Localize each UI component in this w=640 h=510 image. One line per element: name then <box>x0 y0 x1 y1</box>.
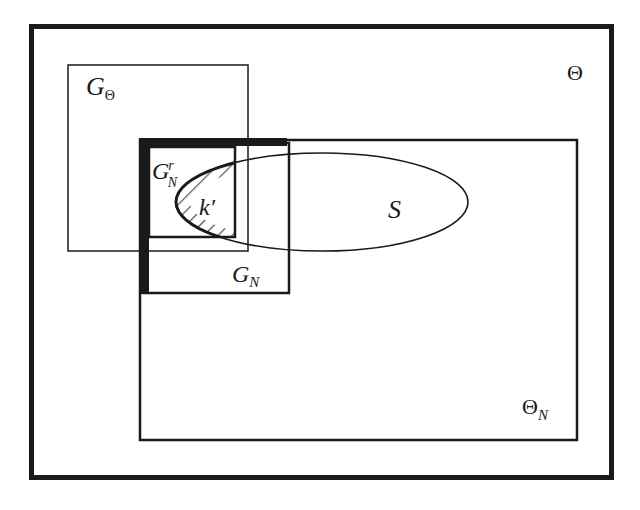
g-theta-label: GΘ <box>86 72 115 103</box>
s-label: S <box>388 195 401 224</box>
set-diagram: Θ ΘN GΘ GN GrN S k′ <box>0 0 640 510</box>
theta-n-label: ΘN <box>522 394 549 423</box>
k-prime-label: k′ <box>199 194 216 220</box>
g-n-r-thick-left-bar <box>139 138 149 294</box>
g-n-r-thick-top-bar <box>139 138 287 146</box>
theta-label: Θ <box>567 60 583 85</box>
g-n-r-label: GrN <box>152 158 178 190</box>
g-n-label: GN <box>232 261 260 290</box>
